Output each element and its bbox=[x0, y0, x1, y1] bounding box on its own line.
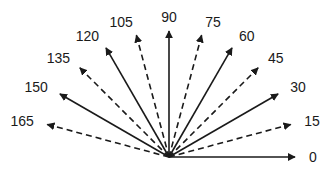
angle-label-60: 60 bbox=[239, 28, 255, 44]
arrow-30-deg bbox=[169, 94, 278, 157]
angle-label-15: 15 bbox=[304, 113, 320, 129]
arrow-165-deg bbox=[47, 124, 169, 157]
angle-label-120: 120 bbox=[76, 28, 100, 44]
arrow-60-deg bbox=[169, 48, 232, 157]
arrow-15-deg bbox=[169, 124, 291, 157]
arrow-150-deg bbox=[60, 94, 169, 157]
angle-label-150: 150 bbox=[24, 79, 48, 95]
angle-fan-diagram: 0153045607590105120135150165 bbox=[0, 0, 324, 172]
angle-label-165: 165 bbox=[10, 113, 34, 129]
angle-label-135: 135 bbox=[47, 50, 71, 66]
arrow-120-deg bbox=[106, 48, 169, 157]
angle-label-0: 0 bbox=[309, 149, 317, 165]
angle-label-105: 105 bbox=[109, 14, 133, 30]
arrow-105-deg bbox=[136, 35, 169, 157]
angle-label-45: 45 bbox=[268, 50, 284, 66]
angle-label-30: 30 bbox=[290, 79, 306, 95]
angle-label-90: 90 bbox=[161, 9, 177, 25]
arrow-75-deg bbox=[169, 35, 202, 157]
arrows-group bbox=[47, 31, 295, 157]
angle-label-75: 75 bbox=[205, 14, 221, 30]
